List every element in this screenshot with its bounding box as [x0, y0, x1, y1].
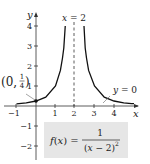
x-axis-label: x: [133, 108, 139, 119]
y-tick-label: 3: [27, 42, 32, 51]
x-tick-label: 2: [71, 109, 76, 118]
x-tick-label: 1: [52, 109, 57, 118]
svg-text:): ): [25, 75, 30, 89]
svg-text:f(x) =: f(x) =: [49, 135, 79, 146]
x-tick-label: 3: [91, 109, 96, 118]
point-leader-line: [26, 94, 35, 100]
x-tick-label: −1: [8, 109, 20, 118]
svg-text:1: 1: [20, 73, 24, 81]
asymptote-v-label: x = 2: [62, 13, 86, 23]
x-tick-label: 4: [111, 109, 116, 118]
y-tick-label: 2: [27, 62, 32, 71]
point-label: (0, 1 4 ): [1, 73, 30, 90]
y-axis-arrow-icon: [34, 12, 38, 17]
y-tick-label: −2: [20, 142, 32, 151]
y-tick-label: −1: [20, 122, 32, 131]
svg-text:(0,: (0,: [1, 75, 17, 89]
svg-text:1: 1: [97, 128, 103, 138]
asymptote-h-label: y = 0: [112, 85, 137, 95]
svg-text:(x − 2): (x − 2): [84, 143, 115, 153]
y-tick-label: 4: [27, 22, 32, 31]
function-graph: −1 1 2 3 4 4 3 2 1 −1 −2 y x x = 2 (0, 1…: [0, 0, 150, 164]
y-axis-label: y: [26, 9, 33, 20]
curve-left-branch: [17, 26, 66, 104]
svg-text:2: 2: [115, 140, 119, 147]
